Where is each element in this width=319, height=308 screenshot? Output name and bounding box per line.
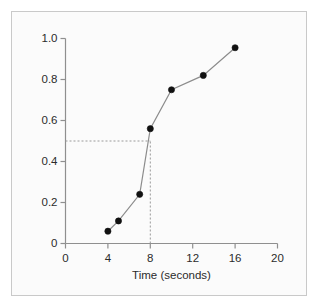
y-axis-tick-label: 1.0 [42, 33, 58, 45]
x-axis-tick-label: 4 [88, 253, 128, 265]
y-axis-tick-label: 0.6 [42, 115, 58, 127]
data-markers-group [105, 45, 238, 235]
data-series-group [108, 48, 235, 231]
y-axis-tick-label: 0.8 [42, 74, 58, 86]
chart-plot-area: 00.20.40.60.81.0 048121620 Time (seconds… [0, 0, 319, 308]
x-axis-tick-label: 16 [215, 253, 255, 265]
y-axis-tick-label: 0.2 [42, 197, 58, 209]
x-axis-tick-label: 0 [46, 253, 86, 265]
y-axis-tick-label: 0.4 [42, 156, 58, 168]
x-axis-tick-label: 20 [258, 253, 298, 265]
axes-group [61, 39, 278, 249]
x-axis-title: Time (seconds) [66, 270, 278, 282]
y-axis-tick-label: 0 [51, 238, 57, 250]
screenshot-root: 00.20.40.60.81.0 048121620 Time (seconds… [0, 0, 319, 308]
x-axis-tick-label: 12 [173, 253, 213, 265]
x-axis-tick-label: 8 [130, 253, 170, 265]
